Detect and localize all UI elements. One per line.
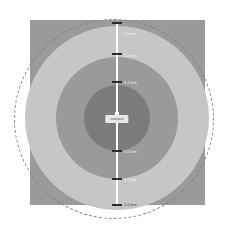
- axis-tick-label-2: 2.0 km: [124, 53, 137, 58]
- axis-tick-2: [112, 53, 122, 55]
- axis-tick-5: [112, 178, 122, 180]
- axis-tick-4: [112, 150, 122, 152]
- axis-tick-label-1: 2.5 km: [124, 31, 137, 36]
- axis-tick-1: [112, 22, 122, 24]
- axis-tick-label-5: 1.5 km: [124, 177, 137, 182]
- camera-label: camera: [105, 115, 128, 123]
- coverage-diagram: 2.5 km 2.0 km 1.5 km camera 0.5 km 1.5 k…: [0, 0, 226, 231]
- axis-tick-6: [112, 204, 122, 206]
- axis-tick-label-3: 1.5 km: [124, 80, 137, 85]
- axis-tick-label-6: 2.0 km: [124, 202, 137, 207]
- axis-tick-label-4: 0.5 km: [124, 149, 137, 154]
- axis-tick-3: [112, 81, 122, 83]
